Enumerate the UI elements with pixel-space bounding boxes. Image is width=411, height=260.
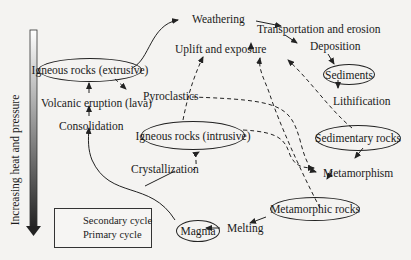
node-igneous-extrusive: Igneous rocks (extrusive)	[38, 58, 142, 82]
node-metamorphic-rocks: Metamorphic rocks	[270, 197, 360, 221]
node-transportation: Transportation and erosion	[257, 24, 381, 36]
node-crystallization: Crystallization	[131, 164, 199, 176]
node-uplift: Uplift and exposure	[175, 44, 266, 56]
node-metamorphism: Metamorphism	[323, 168, 393, 180]
node-sedimentary-rocks: Sedimentary rocks	[315, 125, 401, 151]
node-deposition: Deposition	[310, 41, 360, 53]
node-magma: Magma	[176, 220, 220, 242]
node-sediments: Sediments	[323, 64, 375, 85]
legend: Secondary cycle Primary cycle	[54, 208, 152, 248]
legend-primary-cycle: Primary cycle	[83, 229, 142, 240]
node-consolidation: Consolidation	[59, 121, 124, 133]
node-lithification: Lithification	[333, 96, 390, 108]
heat-pressure-label: Increasing heat and pressure	[8, 60, 22, 260]
heat-pressure-arrow	[26, 30, 41, 236]
legend-secondary-cycle: Secondary cycle	[83, 215, 152, 226]
node-melting: Melting	[227, 223, 263, 235]
node-pyroclastics: Pyroclastics	[143, 91, 199, 103]
node-volcanic-eruption: Volcanic eruption (lava)	[41, 98, 152, 110]
node-igneous-intrusive: Igneous rocks (intrusive)	[141, 121, 245, 150]
node-weathering: Weathering	[192, 14, 245, 26]
